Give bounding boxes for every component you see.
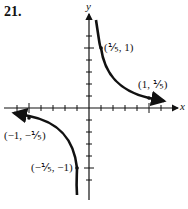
y-axis-label: y <box>86 0 91 12</box>
point-label: (−1, −⅕) <box>4 129 46 142</box>
point-label: (1, ⅕) <box>138 78 167 91</box>
point-label: (⅕, 1) <box>104 41 133 54</box>
curve-branch-negative <box>14 113 77 195</box>
graph <box>0 0 188 209</box>
x-axis-label: x <box>180 100 185 112</box>
point-label: (−⅕, −1) <box>31 161 73 174</box>
